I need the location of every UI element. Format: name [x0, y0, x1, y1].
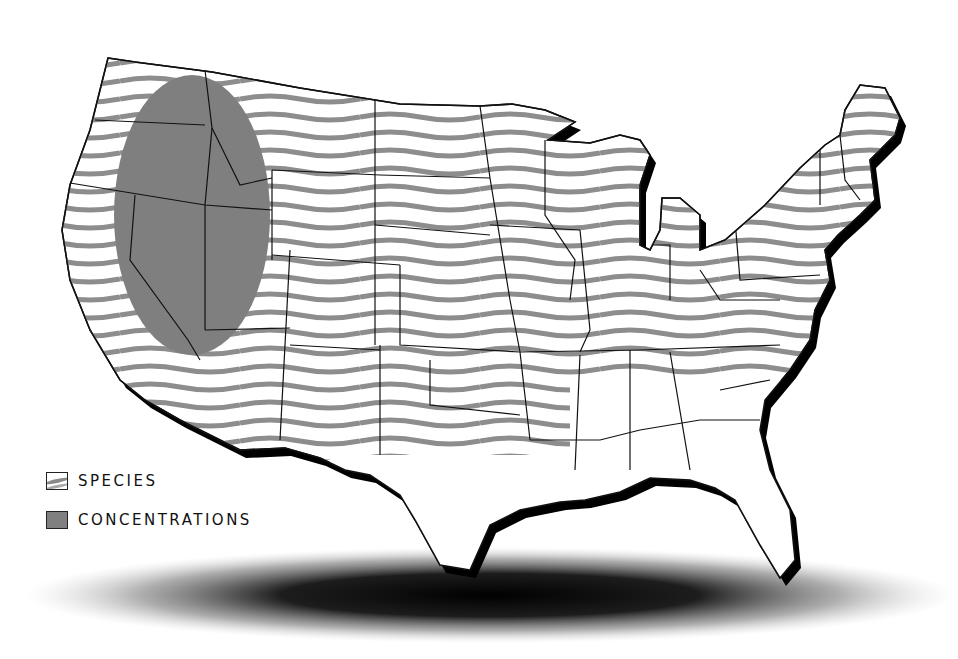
legend-item-concentrations: CONCENTRATIONS — [46, 509, 252, 531]
solid-gray-swatch-icon — [46, 511, 68, 529]
legend-label-concentrations: CONCENTRATIONS — [78, 511, 252, 529]
legend-label-species: SPECIES — [78, 472, 157, 490]
wavy-hatch-swatch-icon — [46, 472, 68, 490]
us-range-map — [0, 0, 958, 659]
concentration-area — [114, 75, 270, 355]
ground-shadow — [25, 547, 955, 643]
legend: SPECIES CONCENTRATIONS — [46, 470, 252, 548]
legend-item-species: SPECIES — [46, 470, 252, 492]
